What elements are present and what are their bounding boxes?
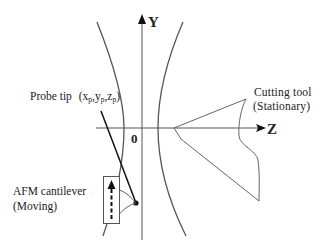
cutting-tool-outline [174, 99, 259, 201]
cantilever-arm-lower [120, 203, 137, 214]
cutting-tool-label-line1: Cutting tool [254, 86, 312, 99]
cutting-tool-label-line2: (Stationary) [253, 100, 310, 113]
y-arrowhead-icon [138, 14, 146, 24]
y-axis-label: Y [148, 14, 159, 30]
afm-tool-coordinate-diagram: Y Z 0 Cutting tool (Stationary) Probe ti… [0, 0, 332, 250]
afm-cantilever [104, 177, 137, 224]
probe-tip-label: Probe tip (xp,yp,zp) [30, 90, 120, 104]
cantilever-label-line1: AFM cantilever [13, 185, 86, 197]
right-curve [158, 22, 186, 236]
cutting-tool [174, 99, 259, 201]
origin-label: 0 [131, 131, 138, 146]
y-axis: Y [138, 14, 159, 240]
probe-tip-text: Probe tip [30, 90, 72, 103]
z-axis-label: Z [267, 121, 277, 137]
cantilever-label-line2: (Moving) [13, 200, 57, 213]
